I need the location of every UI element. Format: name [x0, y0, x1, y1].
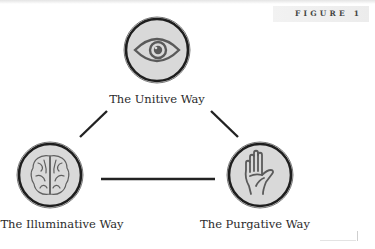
edge-unitive-illuminative — [80, 111, 107, 137]
node-label-purgative: The Purgative Way — [200, 217, 310, 231]
node-unitive — [124, 17, 190, 83]
edge-unitive-purgative — [211, 111, 238, 137]
node-label-illuminative: The Illuminative Way — [0, 217, 123, 231]
node-illuminative — [17, 142, 83, 208]
edges — [80, 111, 238, 179]
triad-diagram — [0, 0, 375, 249]
node-label-unitive: The Unitive Way — [109, 92, 205, 106]
node-purgative — [227, 142, 293, 208]
crop-mark — [320, 240, 356, 241]
crop-mark — [357, 231, 358, 241]
